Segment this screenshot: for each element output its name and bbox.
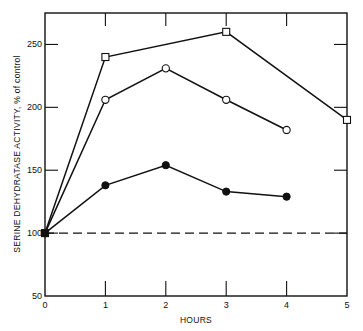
line-chart: 01234550100150200250 HOURS SERINE DEHYDR… bbox=[0, 0, 363, 331]
x-tick-label: 4 bbox=[284, 300, 289, 310]
data-point bbox=[344, 116, 351, 123]
data-point bbox=[223, 188, 230, 195]
data-point bbox=[283, 193, 290, 200]
y-tick-label: 250 bbox=[27, 39, 42, 49]
axis-ticks: 01234550100150200250 bbox=[27, 13, 350, 310]
data-point bbox=[102, 54, 109, 61]
data-series bbox=[41, 28, 350, 236]
y-tick-label: 50 bbox=[32, 291, 42, 301]
x-tick-label: 1 bbox=[103, 300, 108, 310]
x-tick-label: 5 bbox=[344, 300, 349, 310]
data-point bbox=[283, 126, 290, 133]
x-tick-label: 3 bbox=[224, 300, 229, 310]
data-point bbox=[162, 162, 169, 169]
series-filled-circles bbox=[41, 162, 290, 237]
data-point bbox=[223, 96, 230, 103]
x-tick-label: 2 bbox=[163, 300, 168, 310]
x-tick-label: 0 bbox=[42, 300, 47, 310]
data-point bbox=[102, 96, 109, 103]
y-tick-label: 150 bbox=[27, 165, 42, 175]
data-point bbox=[41, 230, 48, 237]
series-open-squares bbox=[42, 28, 351, 236]
y-axis-title: SERINE DEHYDRATASE ACTIVITY, % of contro… bbox=[12, 55, 22, 252]
plot-frame bbox=[45, 13, 347, 296]
series-open-circles bbox=[41, 65, 290, 237]
data-point bbox=[102, 182, 109, 189]
x-axis-title: HOURS bbox=[180, 315, 212, 325]
data-point bbox=[162, 65, 169, 72]
data-point bbox=[223, 28, 230, 35]
y-tick-label: 100 bbox=[27, 228, 42, 238]
y-tick-label: 200 bbox=[27, 102, 42, 112]
